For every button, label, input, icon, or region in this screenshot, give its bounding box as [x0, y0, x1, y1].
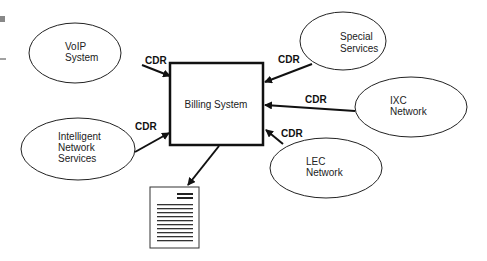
- special-line1: Special: [340, 31, 373, 42]
- voip-line1: VoIP: [65, 41, 86, 52]
- lec-line1: LEC: [306, 156, 325, 167]
- document-icon: [150, 187, 199, 248]
- ins-cdr-label: CDR: [135, 121, 157, 132]
- margin-mark: [0, 16, 5, 22]
- special-cdr-label: CDR: [278, 54, 300, 65]
- voip-cdr-label: CDR: [145, 55, 167, 66]
- billing-diagram: Billing System VoIP System CDR Special S…: [0, 0, 487, 261]
- lec-cdr-label: CDR: [281, 128, 303, 139]
- ixc-arrow: [265, 105, 355, 111]
- ixc-line1: IXC: [390, 95, 407, 106]
- special-line2: Services: [340, 43, 378, 54]
- ins-line1: Intelligent: [58, 131, 101, 142]
- billing-system-label: Billing System: [185, 99, 248, 110]
- voip-arrow: [142, 65, 170, 76]
- special-arrow: [265, 64, 312, 82]
- ins-line3: Services: [58, 153, 96, 164]
- ins-arrow: [135, 133, 169, 152]
- voip-line2: System: [65, 52, 98, 63]
- lec-line2: Network: [306, 167, 344, 178]
- ins-line2: Network: [58, 142, 96, 153]
- ixc-cdr-label: CDR: [305, 94, 327, 105]
- output-arrow: [188, 146, 219, 185]
- ixc-line2: Network: [390, 106, 428, 117]
